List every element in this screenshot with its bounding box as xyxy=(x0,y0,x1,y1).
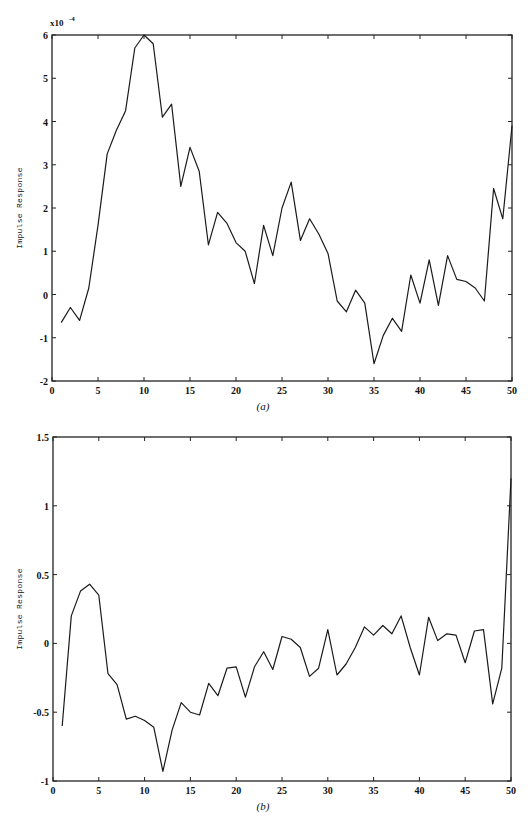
y-tick-label: 0 xyxy=(44,638,49,649)
data-line xyxy=(62,478,511,771)
data-line xyxy=(61,35,512,364)
x-tick-label: 20 xyxy=(231,385,241,396)
y-tick-label: 1 xyxy=(43,246,48,257)
x-tick-label: 0 xyxy=(50,385,55,396)
y-tick-label: 3 xyxy=(43,160,48,171)
x-tick-label: 50 xyxy=(507,385,517,396)
y-tick-label: -1 xyxy=(41,776,49,787)
figure: 05101520253035404550-2-10123456x10-4Impu… xyxy=(0,0,530,817)
x-tick-label: 50 xyxy=(506,785,516,796)
y-tick-label: 0.5 xyxy=(37,570,50,581)
y-tick-label: 4 xyxy=(43,117,48,128)
x-tick-label: 45 xyxy=(461,385,471,396)
x-tick-label: 10 xyxy=(139,385,149,396)
x-tick-label: 25 xyxy=(277,385,287,396)
y-tick-label: 1 xyxy=(44,501,49,512)
y-tick-label: 0 xyxy=(43,290,48,301)
x-tick-label: 45 xyxy=(460,785,470,796)
x-tick-label: 35 xyxy=(369,785,379,796)
y-tick-label: 1.5 xyxy=(37,432,50,443)
x-tick-label: 25 xyxy=(277,785,287,796)
y-tick-label: 5 xyxy=(43,73,48,84)
chart-caption: (a) xyxy=(257,400,270,413)
x-tick-label: 40 xyxy=(414,785,424,796)
chart-panel-a: 05101520253035404550-2-10123456x10-4Impu… xyxy=(15,15,517,413)
y-tick-label: 2 xyxy=(43,203,48,214)
x-tick-label: 15 xyxy=(185,385,195,396)
figure-svg: 05101520253035404550-2-10123456x10-4Impu… xyxy=(0,0,530,817)
y-axis-label: Impulse Response xyxy=(15,167,24,249)
y-axis-label: Impulse Response xyxy=(15,568,24,650)
x-tick-label: 5 xyxy=(96,785,101,796)
y-tick-label: -1 xyxy=(40,333,48,344)
x-tick-label: 10 xyxy=(140,785,150,796)
y-tick-label: -2 xyxy=(40,376,48,387)
x-tick-label: 20 xyxy=(231,785,241,796)
x-tick-label: 5 xyxy=(96,385,101,396)
x-tick-label: 30 xyxy=(323,785,333,796)
y-scale-label: x10 xyxy=(50,18,64,28)
y-tick-label: -0.5 xyxy=(33,707,49,718)
x-tick-label: 0 xyxy=(51,785,56,796)
y-scale-exponent: -4 xyxy=(69,15,75,23)
x-tick-label: 30 xyxy=(323,385,333,396)
x-tick-label: 35 xyxy=(369,385,379,396)
x-tick-label: 40 xyxy=(415,385,425,396)
x-tick-label: 15 xyxy=(185,785,195,796)
chart-panel-b: 05101520253035404550-1-0.500.511.5Impuls… xyxy=(15,432,516,813)
chart-caption: (b) xyxy=(257,800,270,813)
plot-frame xyxy=(53,437,511,781)
y-tick-label: 6 xyxy=(43,30,48,41)
